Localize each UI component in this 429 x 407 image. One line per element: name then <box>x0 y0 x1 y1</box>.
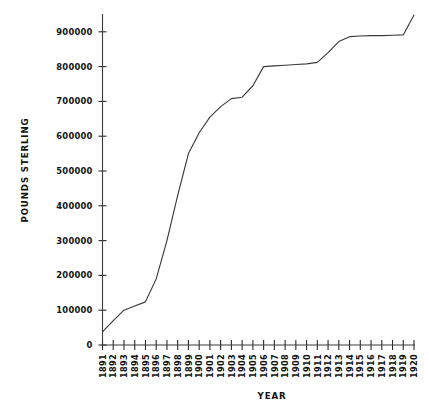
x-tick-label: 1920 <box>409 354 419 378</box>
y-tick-label: 700000 <box>56 96 92 106</box>
x-tick-label: 1902 <box>216 354 226 378</box>
x-tick-label: 1911 <box>313 354 323 378</box>
x-tick-label: 1913 <box>334 354 344 378</box>
y-tick-label: 300000 <box>56 236 92 246</box>
x-tick-label: 1910 <box>302 354 312 378</box>
x-tick-label: 1897 <box>162 354 172 378</box>
chart-canvas: 0100000200000300000400000500000600000700… <box>0 0 429 407</box>
x-tick-label: 1893 <box>119 354 129 378</box>
x-tick-label: 1912 <box>323 354 333 378</box>
x-tick-label: 1899 <box>184 354 194 378</box>
y-tick-label: 900000 <box>56 27 92 37</box>
x-tick-label: 1918 <box>388 354 398 378</box>
y-axis-tick-labels: 0100000200000300000400000500000600000700… <box>56 27 92 350</box>
x-tick-label: 1903 <box>227 354 237 378</box>
x-tick-label: 1898 <box>173 354 183 378</box>
x-tick-label: 1906 <box>259 354 269 378</box>
y-tick-label: 0 <box>86 340 92 350</box>
x-tick-label: 1901 <box>205 354 215 378</box>
x-axis-tick-labels: 1891189218931894189518961897189818991900… <box>98 354 420 378</box>
x-tick-label: 1905 <box>248 354 258 378</box>
x-tick-label: 1900 <box>194 354 204 378</box>
y-tick-label: 100000 <box>56 305 92 315</box>
y-tick-label: 400000 <box>56 201 92 211</box>
x-tick-label: 1907 <box>270 354 280 378</box>
x-tick-label: 1915 <box>355 354 365 378</box>
x-tick-label: 1914 <box>345 354 355 378</box>
x-tick-label: 1908 <box>280 354 290 378</box>
y-tick-label: 200000 <box>56 270 92 280</box>
x-tick-label: 1909 <box>291 354 301 378</box>
x-axis-title: YEAR <box>257 391 287 401</box>
x-tick-label: 1891 <box>98 354 108 378</box>
y-tick-label: 600000 <box>56 131 92 141</box>
y-tick-label: 500000 <box>56 166 92 176</box>
x-tick-label: 1894 <box>130 354 140 378</box>
x-tick-label: 1917 <box>377 354 387 378</box>
x-tick-label: 1904 <box>237 354 247 378</box>
data-series-line <box>103 15 415 332</box>
x-tick-label: 1916 <box>366 354 376 378</box>
x-tick-label: 1892 <box>108 354 118 378</box>
x-tick-label: 1919 <box>398 354 408 378</box>
x-tick-label: 1895 <box>141 354 151 378</box>
line-chart-figure: 0100000200000300000400000500000600000700… <box>0 0 429 407</box>
x-tick-label: 1896 <box>151 354 161 378</box>
y-axis-title: POUNDS STERLING <box>20 117 30 222</box>
y-tick-label: 800000 <box>56 62 92 72</box>
